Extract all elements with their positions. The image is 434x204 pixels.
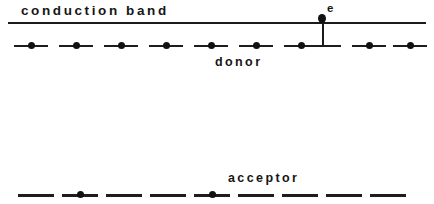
acceptor-level-row — [0, 187, 434, 204]
occupancy-dot-icon — [298, 42, 305, 49]
level-segment — [370, 194, 406, 197]
occupancy-dot-icon — [253, 42, 260, 49]
level-segment — [238, 194, 274, 197]
occupancy-dot-icon — [28, 42, 35, 49]
occupancy-dot-icon — [366, 42, 373, 49]
occupancy-dot-icon — [163, 42, 170, 49]
conduction-band-line — [8, 22, 426, 24]
occupancy-dot-icon — [208, 42, 215, 49]
occupancy-dot-icon — [77, 191, 84, 198]
occupancy-dot-icon — [209, 191, 216, 198]
band-diagram-figure: conduction band e donor acceptor — [0, 0, 434, 204]
occupancy-dot-icon — [118, 42, 125, 49]
level-segment — [150, 194, 186, 197]
level-segment — [282, 194, 318, 197]
level-segment — [326, 194, 362, 197]
donor-label: donor — [215, 56, 262, 69]
ionization-arrow — [322, 23, 324, 46]
electron-label: e — [327, 3, 333, 15]
free-electron-dot-icon — [318, 14, 326, 23]
level-segment — [18, 194, 54, 197]
level-segment — [307, 45, 341, 47]
occupancy-dot-icon — [73, 42, 80, 49]
occupancy-dot-icon — [407, 42, 414, 49]
conduction-band-label: conduction band — [21, 4, 169, 18]
level-segment — [106, 194, 142, 197]
donor-level-row — [0, 38, 434, 56]
acceptor-label: acceptor — [228, 172, 299, 185]
